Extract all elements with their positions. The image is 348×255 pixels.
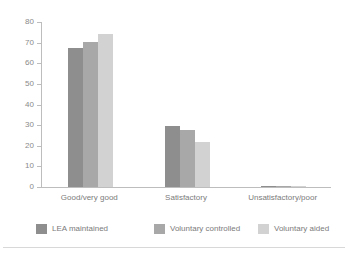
bar (291, 186, 306, 187)
legend-label: LEA maintained (52, 222, 108, 236)
legend-swatch-icon (36, 224, 47, 234)
bar (276, 186, 291, 187)
y-axis-tick: 10 (37, 166, 41, 167)
legend-item[interactable]: LEA maintained (36, 219, 108, 233)
bar-chart-figure: 01020304050607080 Good/very goodSatisfac… (0, 0, 348, 255)
y-axis-tick: 50 (37, 84, 41, 85)
x-axis-category-label: Good/very good (61, 192, 118, 203)
y-axis-tick: 20 (37, 146, 41, 147)
y-axis-tick-label: 70 (25, 37, 34, 48)
plot-area: 01020304050607080 Good/very goodSatisfac… (41, 22, 331, 188)
y-axis-tick-label: 20 (25, 140, 34, 151)
y-axis-tick-label: 80 (25, 16, 34, 27)
legend-item[interactable]: Voluntary controlled (154, 219, 240, 233)
y-axis-tick-label: 40 (25, 99, 34, 110)
legend-item[interactable]: Voluntary aided (258, 219, 329, 233)
y-axis-line (41, 22, 42, 188)
bar (165, 126, 180, 187)
legend-label: Voluntary aided (274, 222, 329, 236)
y-axis-tick-label: 0 (30, 181, 34, 192)
bottom-divider (3, 247, 345, 248)
x-axis-line (41, 187, 331, 188)
bar (180, 130, 195, 187)
bar (261, 186, 276, 187)
y-axis-tick: 0 (37, 187, 41, 188)
y-axis-tick-label: 60 (25, 57, 34, 68)
legend-swatch-icon (154, 224, 165, 234)
cropped-title-remnant (24, 0, 324, 5)
x-axis-category-label: Satisfactory (165, 192, 207, 203)
x-axis-category-label: Unsatisfactory/poor (248, 192, 317, 203)
bar (68, 48, 83, 187)
y-axis-tick: 30 (37, 125, 41, 126)
chart-legend: LEA maintainedVoluntary controlledVolunt… (36, 219, 336, 233)
bar (195, 142, 210, 187)
y-axis-tick-label: 10 (25, 160, 34, 171)
y-axis-tick-label: 30 (25, 119, 34, 130)
legend-label: Voluntary controlled (170, 222, 240, 236)
legend-swatch-icon (258, 224, 269, 234)
y-axis-tick: 70 (37, 43, 41, 44)
y-axis-tick: 40 (37, 105, 41, 106)
y-axis-tick-label: 50 (25, 78, 34, 89)
y-axis-tick: 60 (37, 63, 41, 64)
bar (98, 34, 113, 187)
bar (83, 42, 98, 187)
y-axis-tick: 80 (37, 22, 41, 23)
